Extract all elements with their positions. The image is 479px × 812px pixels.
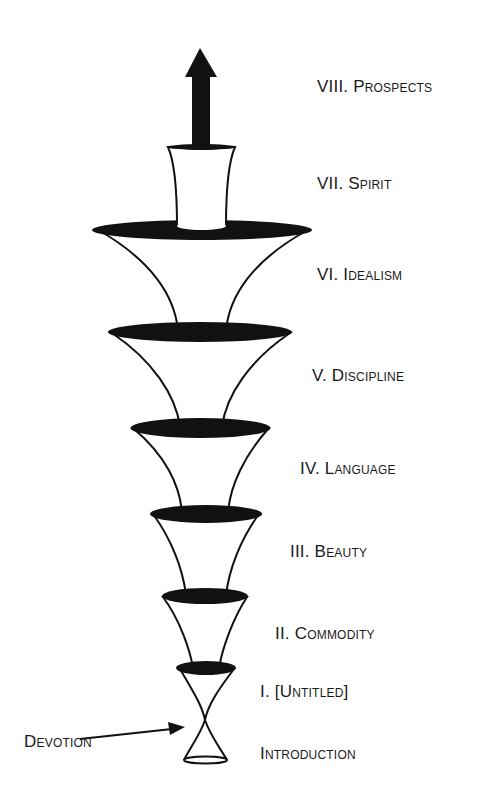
cup-spirit [168,144,236,230]
label-untitled: I. [Untitled] [260,683,349,700]
cup-stage-3 [134,429,268,523]
label-beauty: III. Beauty [290,543,367,560]
label-language: IV. Language [300,460,396,477]
cup-stage-4 [112,333,290,438]
label-devotion: Devotion [24,733,92,750]
cup-stage-2 [153,514,259,604]
label-discipline: V. Discipline [312,367,404,384]
rim-stage-4 [131,418,271,438]
label-commodity: II. Commodity [275,625,375,642]
pointer-arrow-icon [80,722,185,739]
rim-stage-3 [150,505,262,523]
cup-stage-5 [100,231,306,342]
rim-stage-2 [162,588,248,604]
label-prospects: VIII. Prospects [317,78,432,95]
up-arrow-icon [185,48,217,146]
rim-stage-5 [108,322,292,342]
label-introduction: Introduction [260,745,356,762]
label-spirit: VII. Spirit [317,175,391,192]
expanding-stages-diagram [0,0,479,812]
hourglass-introduction [180,669,234,764]
rim-stage-1 [176,661,236,675]
cup-stage-1 [163,597,247,675]
label-idealism: VI. Idealism [317,266,402,283]
